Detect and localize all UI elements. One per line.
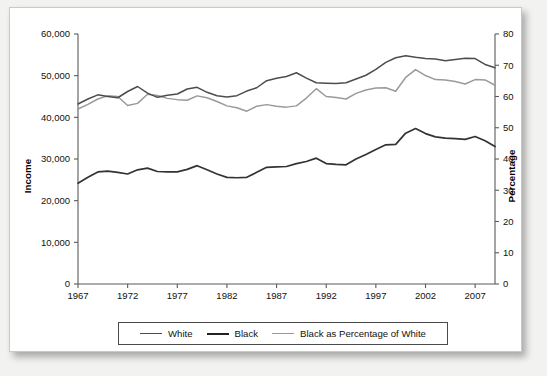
legend-item-black[interactable]: Black [207, 328, 258, 339]
left-tick-label: 0 [65, 278, 70, 289]
left-tick-label: 20,000 [41, 195, 70, 206]
line-swatch-black-icon [207, 333, 229, 335]
x-tick-label: 2002 [415, 290, 436, 301]
legend-item-percentage[interactable]: Black as Percentage of White [272, 328, 426, 339]
line-swatch-percentage-icon [272, 333, 294, 334]
x-tick-label: 1987 [266, 290, 287, 301]
series-line-black [78, 129, 495, 184]
left-axis-ticks: 010,00020,00030,00040,00050,00060,000 [41, 28, 78, 289]
legend-label-black: Black [235, 328, 258, 339]
x-axis-ticks: 196719721977198219871992199720022007 [67, 284, 485, 301]
left-tick-label: 50,000 [41, 70, 70, 81]
legend-item-white[interactable]: White [140, 328, 193, 339]
plot-area: 010,00020,00030,00040,00050,00060,000 01… [10, 8, 523, 353]
left-axis-title: Income [22, 158, 33, 193]
right-tick-label: 50 [503, 122, 514, 133]
line-swatch-white-icon [140, 333, 162, 334]
figure-background: 010,00020,00030,00040,00050,00060,000 01… [0, 0, 547, 376]
left-tick-label: 40,000 [41, 112, 70, 123]
left-tick-label: 10,000 [41, 237, 70, 248]
left-tick-label: 60,000 [41, 28, 70, 39]
x-tick-label: 1997 [365, 290, 386, 301]
x-tick-label: 1982 [216, 290, 237, 301]
chart-legend: White Black Black as Percentage of White [118, 322, 448, 345]
legend-label-percentage: Black as Percentage of White [300, 328, 426, 339]
legend-label-white: White [168, 328, 193, 339]
right-tick-label: 60 [503, 91, 514, 102]
x-tick-label: 1967 [67, 290, 88, 301]
right-axis-title: Percentage [506, 149, 517, 202]
x-tick-label: 2007 [465, 290, 486, 301]
x-tick-label: 1972 [117, 290, 138, 301]
series-line-white [78, 56, 495, 104]
right-tick-label: 10 [503, 247, 514, 258]
x-tick-label: 1992 [316, 290, 337, 301]
right-tick-label: 0 [503, 278, 508, 289]
right-tick-label: 80 [503, 28, 514, 39]
x-tick-label: 1977 [167, 290, 188, 301]
chart-card: 010,00020,00030,00040,00050,00060,000 01… [9, 7, 522, 352]
left-tick-label: 30,000 [41, 153, 70, 164]
right-tick-label: 70 [503, 60, 514, 71]
right-tick-label: 20 [503, 216, 514, 227]
line-chart: 010,00020,00030,00040,00050,00060,000 01… [10, 8, 523, 353]
